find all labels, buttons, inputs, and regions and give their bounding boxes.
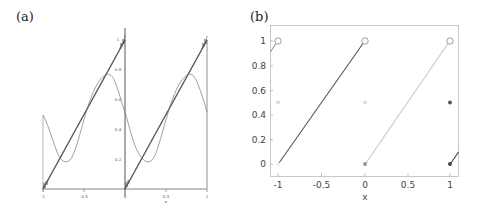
svg-text:0.6: 0.6: [252, 86, 267, 96]
svg-text:0.2: 0.2: [252, 135, 266, 145]
svg-text:x: x: [362, 192, 368, 202]
svg-text:0.5: 0.5: [401, 180, 415, 190]
svg-text:1: 1: [260, 36, 266, 46]
chart-b-filled-points: [276, 101, 452, 167]
svg-text:0: 0: [362, 180, 368, 190]
svg-text:1: 1: [447, 180, 453, 190]
chart-b-y-ticks: 0 0.2 0.4 0.6 0.8 1: [252, 36, 273, 169]
svg-text:-1: -1: [274, 180, 283, 190]
svg-text:0.4: 0.4: [252, 110, 267, 120]
svg-text:-0.5: -0.5: [313, 180, 331, 190]
chart-b: -1 -0.5 0 0.5 1 x 0 0.2 0.4 0.6 0.8 1: [0, 0, 478, 208]
svg-text:0: 0: [260, 159, 266, 169]
chart-b-x-ticks: -1 -0.5 0 0.5 1 x: [274, 173, 453, 202]
chart-b-open-circles: [275, 38, 453, 44]
svg-text:0.8: 0.8: [252, 61, 267, 71]
